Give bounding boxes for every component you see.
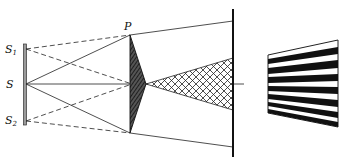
interference-region bbox=[146, 58, 233, 110]
label-s2: S2 bbox=[5, 114, 18, 128]
label-s1: S1 bbox=[5, 43, 17, 57]
label-s: S bbox=[6, 78, 14, 91]
fringe-pattern bbox=[268, 40, 338, 127]
label-prism: P bbox=[123, 20, 132, 33]
biprism bbox=[130, 35, 146, 133]
source-slit bbox=[24, 44, 27, 125]
biprism-diagram: S1 S S2 P bbox=[0, 0, 346, 166]
